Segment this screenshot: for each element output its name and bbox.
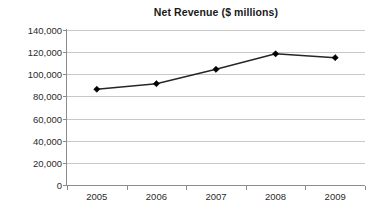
data-point-marker	[332, 55, 338, 61]
series-layer	[0, 0, 380, 220]
data-point-marker	[94, 86, 100, 92]
data-point-marker	[153, 81, 159, 87]
net-revenue-line-chart: Net Revenue ($ millions) 020,00040,00060…	[0, 0, 380, 220]
data-point-marker	[273, 51, 279, 57]
data-point-marker	[213, 66, 219, 72]
